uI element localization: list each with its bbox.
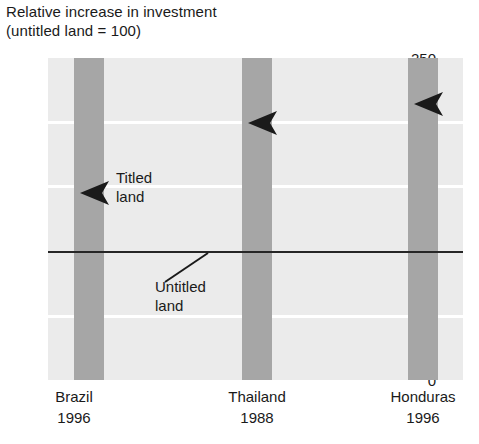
chart-title-block: Relative increase in investment (untitle… bbox=[6, 2, 446, 40]
chart-figure: Relative increase in investment (untitle… bbox=[0, 0, 479, 444]
left-arrow-icon-honduras bbox=[412, 91, 454, 117]
left-arrow-icon-thailand bbox=[246, 110, 288, 136]
x-category-brazil: Brazil 1996 bbox=[4, 386, 144, 428]
plot-area bbox=[48, 58, 463, 380]
chart-title: Relative increase in investment bbox=[6, 2, 446, 21]
annotation-titled-land-line2: land bbox=[116, 187, 152, 206]
x-category-thailand-name: Thailand bbox=[187, 386, 327, 407]
annotation-untitled-land-line2: land bbox=[155, 296, 206, 315]
x-category-honduras-year: 1996 bbox=[353, 407, 479, 428]
x-category-brazil-year: 1996 bbox=[4, 407, 144, 428]
x-category-thailand: Thailand 1988 bbox=[187, 386, 327, 428]
bar-thailand bbox=[242, 58, 272, 380]
x-category-honduras: Honduras 1996 bbox=[353, 386, 479, 428]
left-arrow-icon-brazil bbox=[78, 180, 120, 206]
reference-line-untitled-land bbox=[48, 251, 463, 253]
annotation-untitled-land-line1: Untitled bbox=[155, 277, 206, 296]
x-category-thailand-year: 1988 bbox=[187, 407, 327, 428]
x-category-honduras-name: Honduras bbox=[353, 386, 479, 407]
x-category-brazil-name: Brazil bbox=[4, 386, 144, 407]
chart-subtitle: (untitled land = 100) bbox=[6, 21, 446, 40]
bar-brazil bbox=[74, 58, 104, 380]
annotation-titled-land-line1: Titled bbox=[116, 168, 152, 187]
annotation-titled-land: Titled land bbox=[116, 168, 152, 206]
annotation-untitled-land: Untitled land bbox=[155, 277, 206, 315]
